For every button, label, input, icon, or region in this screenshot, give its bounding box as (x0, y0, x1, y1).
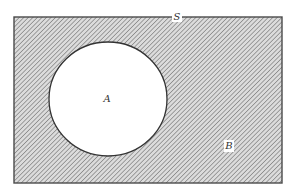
label-a: A (102, 93, 110, 104)
label-s: S (174, 11, 181, 22)
label-b: B (224, 140, 232, 151)
venn-diagram: S A B (0, 0, 294, 195)
